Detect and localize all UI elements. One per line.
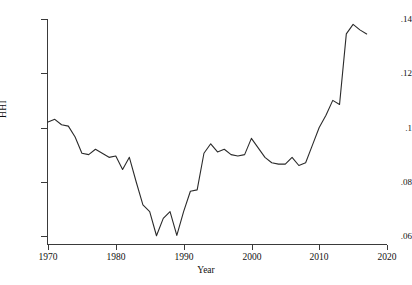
chart-plot-svg xyxy=(0,0,412,285)
data-series-hhi xyxy=(48,24,367,235)
chart-figure: .14 .12 .1 .08 .06 1970 1980 1990 2000 2… xyxy=(0,0,412,285)
